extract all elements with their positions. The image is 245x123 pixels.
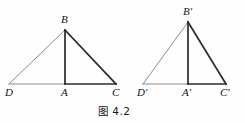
figure-container: B D A C B' D' A' C' 图 4.2 bbox=[0, 0, 245, 123]
vertex-label-Dp: D' bbox=[137, 87, 147, 98]
vertex-label-Ap: A' bbox=[182, 87, 191, 98]
edge-Dp-Bp bbox=[143, 22, 188, 84]
edge-B-C bbox=[65, 30, 116, 84]
vertex-label-Bp: B' bbox=[183, 6, 192, 17]
vertex-label-D: D bbox=[5, 87, 13, 98]
right-triangle-group bbox=[143, 22, 226, 84]
left-triangle-group bbox=[9, 30, 116, 84]
vertex-label-B: B bbox=[61, 14, 68, 25]
vertex-label-C: C bbox=[112, 87, 119, 98]
vertex-label-A: A bbox=[61, 87, 68, 98]
figure-caption: 图 4.2 bbox=[98, 103, 131, 118]
vertex-label-Cp: C' bbox=[220, 87, 230, 98]
edge-Bp-Cp bbox=[188, 22, 226, 84]
edge-D-B bbox=[9, 30, 65, 84]
